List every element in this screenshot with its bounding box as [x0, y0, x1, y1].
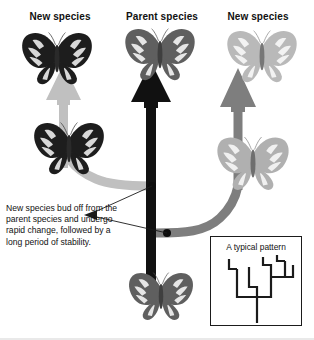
butterfly-new-species-right-top: [224, 26, 300, 84]
butterfly-parent-species-top: [122, 24, 198, 82]
column-header-parent-species: Parent species: [110, 11, 214, 22]
branching-tree-icon: [211, 253, 303, 325]
branch-point-left-dot: [148, 182, 156, 190]
typical-pattern-inset: A typical pattern: [210, 236, 302, 326]
caption-text: New species bud off from the parent spec…: [6, 203, 118, 248]
branch-point-right-dot: [163, 229, 171, 237]
branch-curve-right-icon: [155, 186, 238, 233]
trunk-arrow-parent-icon: [131, 62, 171, 290]
butterfly-new-species-left-top: [18, 28, 96, 86]
column-header-new-species-left: New species: [6, 11, 114, 22]
evolution-diagram: New species Parent species New species: [0, 0, 314, 340]
butterfly-new-species-right-bottom: [214, 132, 292, 192]
column-header-new-species-right: New species: [206, 11, 310, 22]
butterfly-parent-species-bottom: [126, 268, 196, 322]
butterfly-new-species-left-bottom: [30, 118, 108, 176]
inset-title: A typical pattern: [211, 242, 301, 252]
